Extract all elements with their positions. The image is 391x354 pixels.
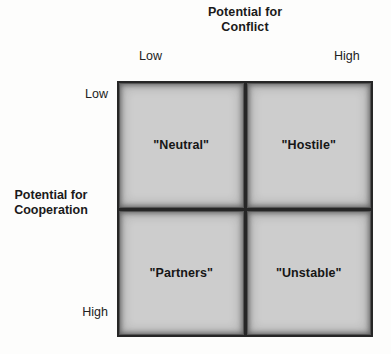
- y-axis-title: Potential for Cooperation: [0, 188, 102, 217]
- quadrant-neutral-label: "Neutral": [153, 138, 209, 152]
- quadrant-hostile-label: "Hostile": [282, 138, 336, 152]
- y-axis-label-low: Low: [60, 87, 108, 101]
- quadrant-unstable-label: "Unstable": [276, 266, 342, 280]
- x-axis-title: Potential for Conflict: [117, 5, 373, 35]
- y-axis-label-high: High: [60, 305, 108, 319]
- quadrant-grid: "Neutral" "Hostile" "Partners" "Unstable…: [117, 81, 373, 337]
- x-axis-label-high: High: [334, 49, 360, 63]
- quadrant-neutral: "Neutral": [119, 83, 244, 208]
- quadrant-unstable: "Unstable": [247, 211, 372, 336]
- x-axis-title-line1: Potential for: [117, 5, 373, 20]
- quadrant-partners-label: "Partners": [149, 266, 213, 280]
- y-axis-title-line2: Cooperation: [0, 203, 102, 218]
- y-axis-title-line1: Potential for: [0, 188, 102, 203]
- quadrant-partners: "Partners": [119, 211, 244, 336]
- x-axis-label-low: Low: [139, 49, 162, 63]
- quadrant-hostile: "Hostile": [247, 83, 372, 208]
- x-axis-title-line2: Conflict: [117, 20, 373, 35]
